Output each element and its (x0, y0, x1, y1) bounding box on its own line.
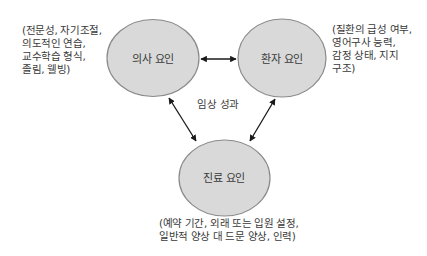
note-line: 구조) (332, 62, 412, 75)
note-line: 교수학습 형식, (22, 50, 102, 63)
physician-care-arrow (169, 98, 196, 141)
physician-factor-note: (전문성, 자기조절, 의도적인 연습, 교수학습 형식, 졸림, 웰빙) (22, 24, 102, 76)
patient-factor-note: (질환의 급성 여부, 영어구사 능력, 감정 상태, 지지 구조) (332, 23, 412, 75)
note-line: 감정 상태, 지지 (332, 49, 412, 62)
clinical-outcome-label: 임상 성과 (197, 96, 239, 111)
care-factor-label: 진료 요인 (203, 169, 245, 185)
patient-care-arrow (250, 99, 275, 141)
note-line: 의도적인 연습, (22, 37, 102, 50)
note-line: (예약 기간, 외래 또는 입원 설정, (159, 217, 298, 230)
physician-factor-label: 의사 요인 (132, 50, 174, 66)
note-line: 일반적 양상 대 드문 양상, 인력) (159, 230, 298, 243)
patient-factor-label: 환자 요인 (261, 50, 303, 66)
note-line: 영어구사 능력, (332, 36, 412, 49)
note-line: (질환의 급성 여부, (332, 23, 412, 36)
care-factor-note: (예약 기간, 외래 또는 입원 설정, 일반적 양상 대 드문 양상, 인력) (159, 217, 298, 243)
note-line: (전문성, 자기조절, (22, 24, 102, 37)
note-line: 졸림, 웰빙) (22, 63, 102, 76)
